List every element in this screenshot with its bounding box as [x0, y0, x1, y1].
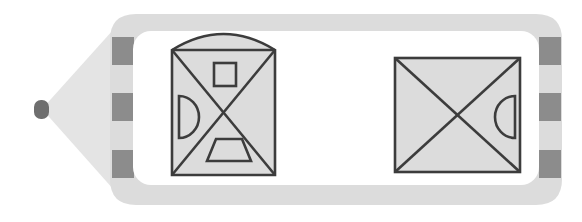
border-dash-left-3: [112, 150, 134, 178]
border-dash-left-2: [112, 93, 134, 121]
border-dash-left-1: [112, 37, 134, 65]
diagram-svg: [0, 0, 582, 222]
border-dash-right-3: [539, 150, 561, 178]
tip-nub: [34, 100, 49, 119]
border-dash-right-2: [539, 93, 561, 121]
inner-trapezoid: [207, 139, 251, 161]
glyph-left-arched-crossed-square: [172, 34, 275, 175]
inner-square: [214, 63, 236, 86]
border-dash-right-1: [539, 37, 561, 65]
glyph-right-crossed-square: [395, 58, 520, 172]
diagram-canvas: [0, 0, 582, 222]
